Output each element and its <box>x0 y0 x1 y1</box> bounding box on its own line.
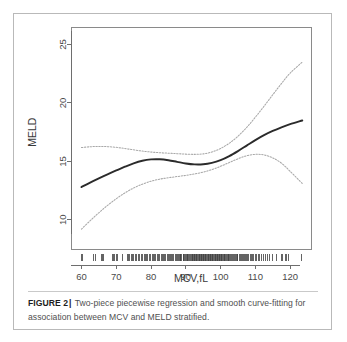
figure-label-separator: | <box>68 298 72 308</box>
y-tick-label: 10 <box>58 215 69 226</box>
x-tick-label: 80 <box>146 271 157 282</box>
x-tick-label: 70 <box>111 271 122 282</box>
x-tick-label: 60 <box>76 271 87 282</box>
chart-plot-area: 10152025 60708090100110120 MCV,fLMELD <box>14 14 331 286</box>
y-tick-label: 15 <box>58 156 69 167</box>
x-axis-title: MCV,fL <box>174 272 208 284</box>
y-axis: 10152025 <box>58 31 72 234</box>
regression-chart: 10152025 60708090100110120 MCV,fLMELD <box>14 14 331 286</box>
fitted-curve <box>81 120 302 187</box>
x-tick-label: 120 <box>282 271 298 282</box>
rug-plot <box>81 254 302 261</box>
figure-panel: 10152025 60708090100110120 MCV,fLMELD FI… <box>13 13 332 330</box>
caption-divider <box>28 291 318 292</box>
x-tick-label: 110 <box>248 271 263 282</box>
curve-group <box>81 62 302 229</box>
x-tick-label: 100 <box>213 271 229 282</box>
figure-label: FIGURE 2 <box>28 298 68 308</box>
figure-caption: FIGURE 2| Two-piece piecewise regression… <box>28 297 320 324</box>
confidence-band-curve <box>81 62 302 154</box>
y-axis-title: MELD <box>26 117 38 147</box>
plot-frame <box>71 27 311 249</box>
confidence-band-curve <box>81 154 302 229</box>
y-tick-label: 25 <box>58 39 69 50</box>
y-tick-label: 20 <box>58 98 69 109</box>
